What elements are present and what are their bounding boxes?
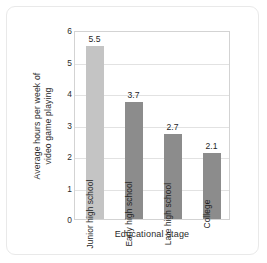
bar-value-label: 3.7 bbox=[128, 90, 140, 100]
bar-category-label: College bbox=[202, 200, 212, 229]
chart-card: Average hours per week of video game pla… bbox=[6, 6, 259, 255]
y-axis-tick-label: 0 bbox=[57, 215, 72, 225]
bar-group[interactable]: Junior high school5.5 bbox=[75, 32, 114, 219]
bar-value-label: 5.5 bbox=[89, 34, 101, 44]
y-axis-tick-label: 2 bbox=[57, 152, 72, 162]
y-axis-title: Average hours per week of video game pla… bbox=[26, 46, 60, 206]
plot-area: Junior high school5.5Early high school3.… bbox=[74, 31, 230, 220]
bar-series: Junior high school5.5Early high school3.… bbox=[75, 32, 229, 219]
bar[interactable]: Junior high school bbox=[86, 46, 104, 219]
y-axis-tick-label: 3 bbox=[57, 121, 72, 131]
bar[interactable]: Late high school bbox=[164, 134, 182, 219]
bar-value-label: 2.1 bbox=[206, 141, 218, 151]
x-axis-title: Educational stage bbox=[74, 229, 230, 239]
y-axis-tick-label: 5 bbox=[57, 58, 72, 68]
bar-group[interactable]: Early high school3.7 bbox=[114, 32, 153, 219]
bar-group[interactable]: Late high school2.7 bbox=[153, 32, 192, 219]
y-axis-tick-labels: 6543210 bbox=[57, 31, 72, 220]
bar[interactable]: College bbox=[203, 153, 221, 219]
bar[interactable]: Early high school bbox=[125, 102, 143, 219]
y-axis-tick-label: 6 bbox=[57, 26, 72, 36]
y-axis-tick-label: 4 bbox=[57, 89, 72, 99]
y-axis-title-text: Average hours per week of video game pla… bbox=[32, 73, 55, 180]
y-axis-tick-label: 1 bbox=[57, 184, 72, 194]
bar-value-label: 2.7 bbox=[167, 122, 179, 132]
bar-group[interactable]: College2.1 bbox=[192, 32, 231, 219]
